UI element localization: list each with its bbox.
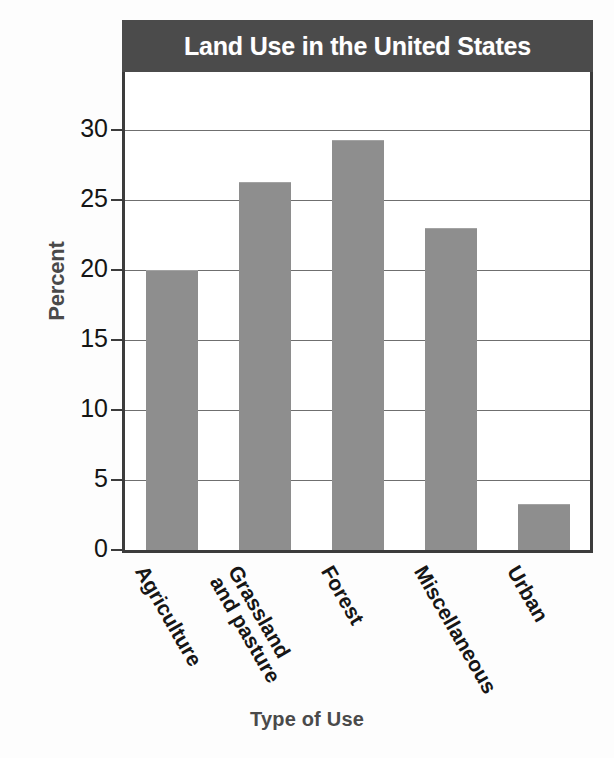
bar-urban[interactable] xyxy=(518,504,570,550)
y-tick-label-15: 15 xyxy=(62,326,108,351)
y-tick-label-25: 25 xyxy=(62,186,108,211)
x-category-label-forest: Forest xyxy=(317,562,368,628)
y-axis-title: Percent xyxy=(44,221,70,341)
x-axis-title: Type of Use xyxy=(0,708,614,731)
y-tick-mark-0 xyxy=(111,549,122,551)
y-tick-label-5: 5 xyxy=(62,466,108,491)
y-tick-label-20: 20 xyxy=(62,256,108,281)
chart-title: Land Use in the United States xyxy=(184,32,531,61)
bar-agriculture[interactable] xyxy=(146,270,198,550)
bar-grassland-and-pasture[interactable] xyxy=(239,182,291,550)
gridline-30 xyxy=(125,130,590,131)
y-tick-label-30: 30 xyxy=(62,116,108,141)
y-tick-label-10: 10 xyxy=(62,396,108,421)
plot-area xyxy=(125,72,590,550)
y-tick-mark-20 xyxy=(111,269,122,271)
x-category-label-urban: Urban xyxy=(503,562,552,625)
x-category-label-agriculture: Agriculture xyxy=(131,562,206,670)
bar-forest[interactable] xyxy=(332,140,384,550)
x-category-label-miscellaneous: Miscellaneous xyxy=(410,562,500,697)
x-category-label-grassland-and-pasture: Grassland and pasture xyxy=(205,562,302,686)
y-tick-label-0: 0 xyxy=(62,536,108,561)
y-tick-mark-30 xyxy=(111,129,122,131)
y-tick-mark-10 xyxy=(111,409,122,411)
y-tick-mark-5 xyxy=(111,479,122,481)
y-tick-mark-25 xyxy=(111,199,122,201)
chart-title-banner: Land Use in the United States xyxy=(122,20,593,72)
y-tick-mark-15 xyxy=(111,339,122,341)
bar-miscellaneous[interactable] xyxy=(425,228,477,550)
